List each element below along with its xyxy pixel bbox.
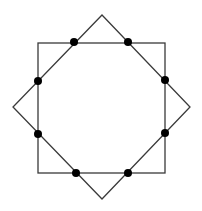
intersection-dot — [72, 169, 80, 177]
intersection-dot — [34, 77, 42, 85]
background — [0, 0, 202, 211]
intersection-dot — [34, 130, 42, 138]
octagram-diagram — [0, 0, 202, 211]
intersection-dot — [70, 38, 78, 46]
intersection-dot — [124, 38, 132, 46]
intersection-dot — [161, 129, 169, 137]
intersection-dot — [124, 169, 132, 177]
intersection-dot — [161, 76, 169, 84]
